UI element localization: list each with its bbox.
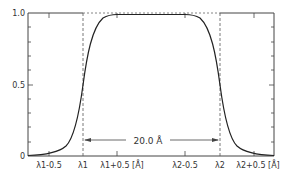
- x-label-l1: λ1: [78, 161, 88, 170]
- y-label-05: 0.5: [12, 81, 25, 90]
- transmission-curve: [28, 15, 274, 156]
- y-label-0: 0: [20, 152, 25, 161]
- arrowhead-left-icon: [84, 138, 91, 142]
- x-label-l2-minus: λ2-0.5: [172, 161, 197, 170]
- y-label-1: 1.0: [12, 9, 25, 18]
- x-label-l1-minus: λ1-0.5: [36, 161, 61, 170]
- y-ticks-left: [28, 27, 33, 142]
- x-label-l2-plus: λ2+0.5 [Å]: [236, 159, 280, 170]
- y-ticks-right: [269, 27, 274, 142]
- chart-canvas: 20.0 Å 1.0 0.5 0 λ1-0.5 λ1 λ1+0.5 [Å] λ2…: [0, 0, 289, 179]
- x-label-l2: λ2: [215, 161, 225, 170]
- width-annotation: 20.0 Å: [133, 135, 163, 146]
- x-label-l1-plus: λ1+0.5 [Å]: [100, 159, 144, 170]
- arrowhead-right-icon: [212, 138, 219, 142]
